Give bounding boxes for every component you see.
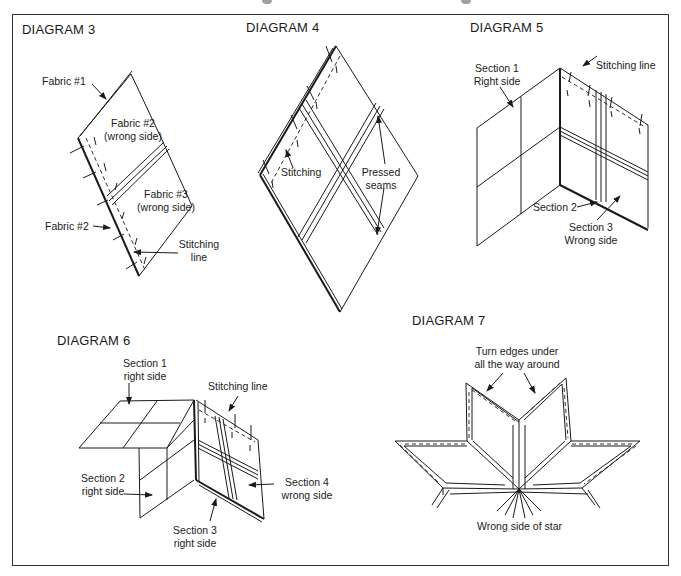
label-line: all the way around: [462, 358, 572, 371]
label-section-4-wrong-side: Section 4 wrong side: [277, 476, 337, 502]
label-line: (wrong side): [131, 201, 201, 214]
diagram-6-title: DIAGRAM 6: [57, 333, 130, 348]
label-line: Right side: [467, 75, 527, 88]
label-line: right side: [115, 370, 175, 383]
label-line: right side: [74, 485, 132, 498]
label-section-3-wrong-side: Section 3 Wrong side: [556, 221, 626, 247]
label-section-3-right-side: Section 3 right side: [165, 524, 225, 550]
label-line: Fabric #2: [98, 117, 168, 130]
label-stitching-line: Stitching line: [208, 380, 268, 393]
label-line: Pressed: [356, 166, 406, 179]
label-section-1-right-side: Section 1 Right side: [467, 62, 527, 88]
label-section-2-right-side: Section 2 right side: [74, 472, 132, 498]
label-wrong-side-of-star: Wrong side of star: [462, 520, 577, 533]
diagram-4-title: DIAGRAM 4: [246, 20, 319, 35]
diagram-7-illustration: [395, 373, 640, 518]
label-line: right side: [165, 537, 225, 550]
label-section-1-right-side: Section 1 right side: [115, 357, 175, 383]
label-pressed-seams: Pressed seams: [356, 166, 406, 192]
label-fabric-1: Fabric #1: [42, 75, 86, 88]
label-line: line: [174, 251, 224, 264]
label-fabric-2-wrong-side: Fabric #2 (wrong side): [98, 117, 168, 143]
diagram-5-title: DIAGRAM 5: [470, 20, 543, 35]
label-line: seams: [356, 179, 406, 192]
label-line: Section 4: [277, 476, 337, 489]
label-line: Turn edges under: [462, 345, 572, 358]
label-turn-edges-under: Turn edges under all the way around: [462, 345, 572, 371]
label-line: Section 1: [467, 62, 527, 75]
label-line: wrong side: [277, 489, 337, 502]
label-stitching: Stitching: [281, 166, 321, 179]
diagram-6-illustration: [79, 383, 274, 522]
diagram-7-title: DIAGRAM 7: [412, 313, 485, 328]
label-line: Fabric #3: [131, 188, 201, 201]
label-line: Wrong side: [556, 234, 626, 247]
label-line: Section 1: [115, 357, 175, 370]
label-line: Stitching: [174, 238, 224, 251]
label-fabric-2: Fabric #2: [45, 220, 89, 233]
label-section-2: Section 2: [533, 201, 577, 214]
label-stitching-line: Stitching line: [174, 238, 224, 264]
label-line: Section 3: [556, 221, 626, 234]
label-line: Section 3: [165, 524, 225, 537]
label-stitching-line: Stitching line: [596, 59, 656, 72]
label-line: Section 2: [74, 472, 132, 485]
label-fabric-3-wrong-side: Fabric #3 (wrong side): [131, 188, 201, 214]
label-line: (wrong side): [98, 130, 168, 143]
diagram-3-title: DIAGRAM 3: [22, 22, 95, 37]
